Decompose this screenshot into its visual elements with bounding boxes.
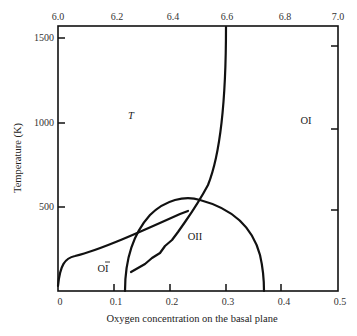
region-label-oii: OII xyxy=(188,231,203,242)
oii-dome-curve xyxy=(125,198,264,291)
y-tick-label: 1500 xyxy=(34,32,54,43)
x-tick-label: 0.2 xyxy=(166,296,179,307)
y-tick-label: 1000 xyxy=(34,117,54,128)
x-tick-label: 0.5 xyxy=(334,296,347,307)
top-tick-label: 6.6 xyxy=(221,11,234,22)
top-tick-label: 6.0 xyxy=(52,11,65,22)
t-oi-boundary-curve xyxy=(131,27,226,272)
region-label-t: T xyxy=(128,110,135,121)
oi-bar-boundary-curve xyxy=(58,211,188,286)
top-axis: 6.0 6.2 6.4 6.6 6.8 7.0 xyxy=(52,11,345,22)
x-tick-label: 0 xyxy=(58,296,63,307)
y-tick-label: 500 xyxy=(39,201,54,212)
x-tick-label: 0.4 xyxy=(278,296,291,307)
y-axis-label: Temperature (K) xyxy=(12,122,24,193)
top-tick-label: 6.4 xyxy=(167,11,180,22)
x-tick-label: 0.3 xyxy=(222,296,235,307)
x-tick-label: 0.1 xyxy=(110,296,123,307)
x-axis-label: Oxygen concentration on the basal plane xyxy=(106,313,277,324)
top-tick-label: 7.0 xyxy=(332,11,345,22)
y-axis: 1500 1000 500 Temperature (K) xyxy=(12,32,65,212)
x-axis: 0 0.1 0.2 0.3 0.4 0.5 Oxygen concentrati… xyxy=(58,284,347,324)
top-tick-label: 6.8 xyxy=(279,11,292,22)
phase-diagram: 6.0 6.2 6.4 6.6 6.8 7.0 1500 1000 500 Te… xyxy=(0,0,357,336)
region-label-oi: OI xyxy=(300,115,312,126)
svg-text:OI: OI xyxy=(97,263,109,274)
region-label-oi-bar: OI xyxy=(97,262,110,274)
top-tick-label: 6.2 xyxy=(111,11,124,22)
plot-frame xyxy=(58,26,338,291)
